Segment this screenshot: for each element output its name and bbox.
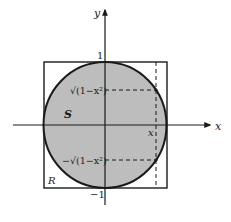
tick-label-y-1: 1 <box>97 50 103 61</box>
x-value-label: x <box>148 127 154 138</box>
lower-intersection-point <box>154 158 157 161</box>
upper-intersection-point <box>154 88 157 91</box>
x-axis-label: x <box>215 120 222 133</box>
diagram-canvas: y x 1 −1 S R x √(1−x²) −√(1−x²) <box>0 0 231 222</box>
square-label-r: R <box>47 175 56 186</box>
upper-value-label: √(1−x²) <box>70 85 107 96</box>
circle-label-s: S <box>64 108 72 121</box>
tick-label-y-neg1: −1 <box>90 189 105 200</box>
lower-value-label: −√(1−x²) <box>62 155 107 166</box>
y-axis-label: y <box>93 7 101 20</box>
